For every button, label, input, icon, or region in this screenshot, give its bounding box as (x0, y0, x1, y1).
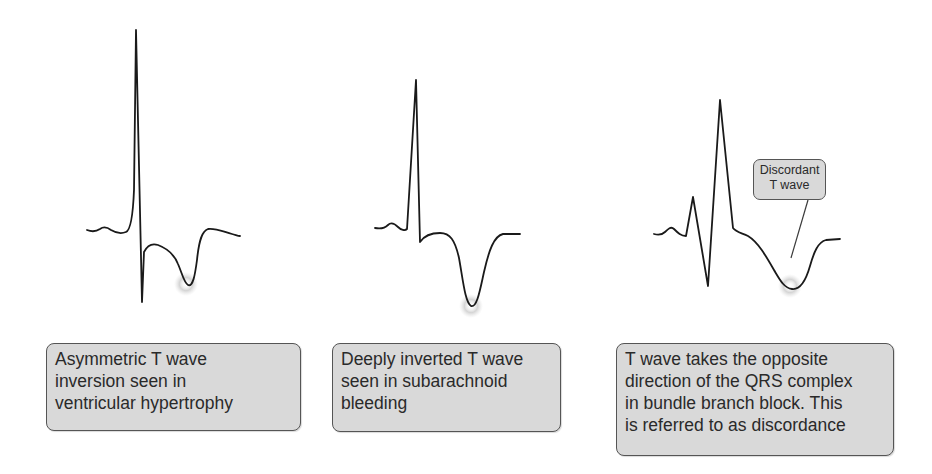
caption-deep-inversion: Deeply inverted T wave seen in subarachn… (332, 343, 561, 432)
callout-line: T wave (758, 178, 821, 193)
caption-line: T wave takes the opposite (625, 348, 885, 370)
callout-line: Discordant (758, 163, 821, 178)
callout-pointer-line (791, 200, 808, 258)
caption-line: seen in subarachnoid (341, 370, 552, 392)
ecg-t-wave-figure: Discordant T wave Asymmetric T wave inve… (0, 0, 932, 474)
caption-line: Asymmetric T wave (55, 348, 292, 370)
ecg-trace-asymmetric (87, 30, 240, 302)
caption-discordance: T wave takes the opposite direction of t… (616, 343, 894, 456)
discordant-t-wave-callout: Discordant T wave (753, 159, 826, 200)
caption-line: in bundle branch block. This (625, 392, 885, 414)
ecg-trace-deep-inversion (375, 80, 520, 318)
caption-line: inversion seen in (55, 370, 292, 392)
t-wave-highlight-marker (778, 274, 802, 298)
caption-line: bleeding (341, 392, 552, 414)
caption-line: Deeply inverted T wave (341, 348, 552, 370)
caption-line: direction of the QRS complex (625, 370, 885, 392)
caption-line: ventricular hypertrophy (55, 392, 292, 414)
caption-asymmetric-t-wave: Asymmetric T wave inversion seen in vent… (46, 343, 301, 431)
caption-line: is referred to as discordance (625, 414, 885, 436)
